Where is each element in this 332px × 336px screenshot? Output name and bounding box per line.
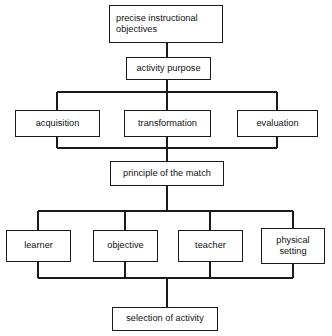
node-principle-of-the-match: principle of the match: [110, 161, 224, 186]
node-transformation: transformation: [124, 110, 211, 137]
node-label: transformation: [135, 118, 200, 129]
node-activity-purpose: activity purpose: [126, 57, 211, 80]
node-label: evaluation: [253, 118, 301, 129]
node-label: teacher: [192, 240, 229, 251]
node-label: activity purpose: [133, 63, 203, 74]
node-physical-setting: physical setting: [261, 228, 325, 264]
node-acquisition: acquisition: [15, 110, 100, 137]
node-selection-of-activity: selection of activity: [112, 307, 218, 331]
node-evaluation: evaluation: [237, 110, 318, 137]
node-label: acquisition: [33, 118, 83, 129]
flowchart-canvas: precise instructional objectives activit…: [0, 0, 332, 336]
node-label: objective: [104, 240, 146, 251]
node-objective: objective: [93, 230, 158, 262]
node-teacher: teacher: [178, 230, 243, 262]
node-label: learner: [21, 240, 56, 251]
node-label: selection of activity: [123, 313, 207, 324]
node-label: precise instructional objectives: [110, 13, 201, 36]
node-precise-instructional-objectives: precise instructional objectives: [109, 5, 223, 43]
node-learner: learner: [6, 230, 71, 262]
node-label: principle of the match: [120, 168, 214, 179]
node-label: physical setting: [273, 235, 312, 258]
